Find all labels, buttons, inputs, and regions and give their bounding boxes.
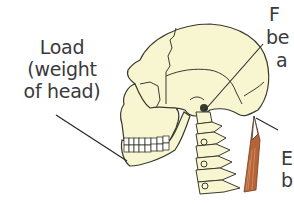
load-label-line-2: (weight [14, 58, 110, 80]
fulcrum-label-line-2: be [266, 26, 289, 49]
neck-muscle [244, 116, 260, 192]
effort-label: E b [281, 147, 293, 191]
fulcrum-label: F be a [266, 3, 289, 72]
fulcrum-label-line-3: a [266, 49, 289, 72]
effort-label-line-2: b [281, 169, 293, 191]
effort-label-line-1: E [281, 147, 293, 169]
cranium [127, 24, 268, 116]
effort-leader-line [256, 118, 278, 130]
load-leader-line [56, 115, 127, 161]
load-label-line-1: Load [14, 36, 110, 58]
teeth [124, 136, 169, 152]
fulcrum-label-line-1: F [266, 3, 289, 26]
load-label: Load (weight of head) [14, 36, 110, 102]
skull-illustration [0, 0, 294, 205]
cervical-spine [196, 112, 240, 194]
load-label-line-3: of head) [14, 80, 110, 102]
head-lever-diagram: Load (weight of head) F be a E b [0, 0, 294, 205]
